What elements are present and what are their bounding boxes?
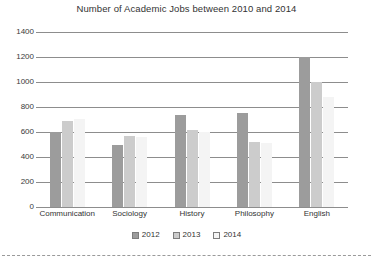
x-axis-category-labels: CommunicationSociologyHistoryPhilosophyE… [36, 209, 348, 223]
bar [311, 82, 322, 207]
bar-group [299, 32, 334, 207]
legend-label: 2013 [183, 231, 201, 239]
bar-group [112, 32, 147, 207]
y-axis-tick-label: 1400 [4, 28, 34, 36]
bar-chart: Number of Academic Jobs between 2010 and… [0, 0, 373, 267]
chart-title: Number of Academic Jobs between 2010 and… [0, 3, 373, 14]
bar-group [175, 32, 210, 207]
legend-item[interactable]: 2014 [213, 231, 241, 239]
legend-label: 2012 [142, 231, 160, 239]
legend-swatch-icon [213, 232, 220, 239]
bar-group [237, 32, 272, 207]
chart-legend: 201220132014 [0, 231, 373, 239]
x-axis-category-label: English [280, 209, 354, 219]
bar [237, 113, 248, 207]
bar [199, 132, 210, 207]
bar [50, 132, 61, 207]
y-axis-tick-label: 1200 [4, 53, 34, 61]
bar [187, 130, 198, 208]
x-axis-line [36, 207, 348, 208]
bars-layer [36, 32, 348, 207]
legend-swatch-icon [132, 232, 139, 239]
bar-group [50, 32, 85, 207]
y-axis-tick-label: 800 [4, 103, 34, 111]
y-axis-tick-label: 400 [4, 153, 34, 161]
bar [249, 142, 260, 207]
y-axis-tick-label: 600 [4, 128, 34, 136]
bottom-divider [2, 255, 371, 256]
bar [62, 121, 73, 207]
legend-swatch-icon [173, 232, 180, 239]
y-axis-tick-label: 1000 [4, 78, 34, 86]
bar [74, 119, 85, 207]
bar [124, 136, 135, 207]
bar [299, 57, 310, 207]
y-axis-tick-label: 200 [4, 178, 34, 186]
legend-item[interactable]: 2012 [132, 231, 160, 239]
bar [261, 143, 272, 207]
bar [323, 97, 334, 207]
legend-label: 2014 [223, 231, 241, 239]
legend-item[interactable]: 2013 [173, 231, 201, 239]
bar [175, 115, 186, 208]
bar [112, 145, 123, 208]
bar [136, 137, 147, 207]
